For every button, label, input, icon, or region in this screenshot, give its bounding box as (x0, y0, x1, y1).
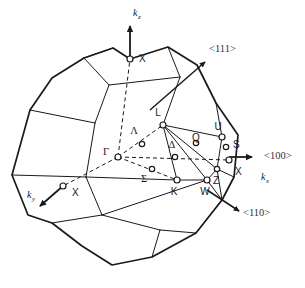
kx-axis-label-sub: x (265, 176, 270, 184)
label-x-right: X (235, 166, 242, 177)
marker-gamma[interactable] (115, 154, 121, 160)
label-dir-110: <110> (243, 207, 270, 218)
marker-x-top[interactable] (127, 56, 133, 62)
marker-delta[interactable] (172, 154, 177, 159)
marker-x-right[interactable] (226, 157, 232, 163)
marker-lambda[interactable] (139, 141, 144, 146)
marker-u[interactable] (219, 134, 225, 140)
label-x-left: X (72, 187, 79, 198)
label-sigma: Σ (141, 173, 147, 184)
label-dir-100: <100> (264, 150, 292, 161)
marker-s[interactable] (223, 144, 228, 149)
label-x-top: X (139, 53, 146, 64)
brillouin-zone-diagram: Γ X X X L Λ Δ Σ K W Q U S Z kz kx ky (0, 0, 305, 288)
label-k: K (171, 186, 178, 197)
label-w: W (200, 186, 210, 197)
marker-z[interactable] (214, 166, 219, 171)
label-s: S (233, 139, 240, 150)
marker-l[interactable] (160, 122, 166, 128)
label-l: L (155, 107, 161, 118)
label-delta: Δ (169, 139, 176, 150)
marker-k[interactable] (174, 177, 180, 183)
brillouin-zone-figure: Γ X X X L Λ Δ Σ K W Q U S Z kz kx ky (0, 0, 305, 288)
marker-w[interactable] (204, 177, 210, 183)
kz-axis-label-sub: z (137, 12, 141, 20)
label-lambda: Λ (130, 125, 138, 136)
label-gamma: Γ (103, 146, 109, 157)
marker-x-left[interactable] (60, 183, 66, 189)
label-q: Q (192, 132, 200, 143)
label-u: U (214, 121, 221, 132)
label-z: Z (213, 175, 219, 186)
marker-sigma[interactable] (149, 166, 154, 171)
label-dir-111: <111> (209, 43, 236, 54)
kz-axis-label: kz (133, 7, 141, 20)
kx-axis-label: kx (261, 171, 270, 184)
